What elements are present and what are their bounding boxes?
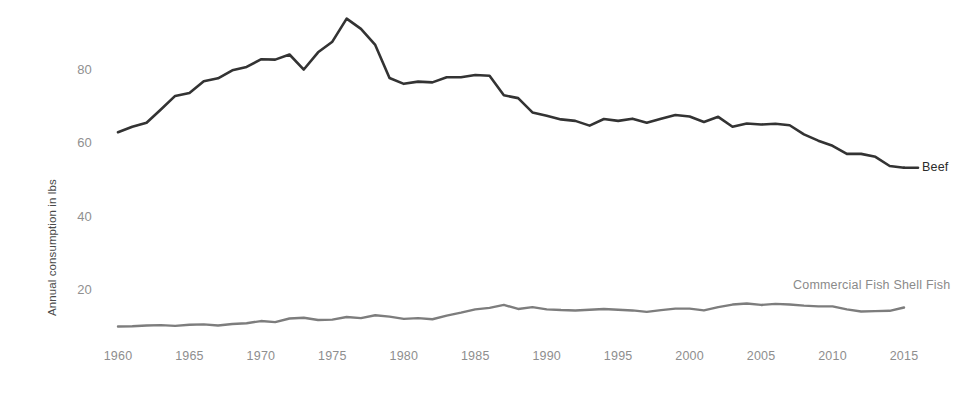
line-chart: Annual consumption in lbs 20406080 19601… — [0, 0, 974, 393]
plot-area — [0, 0, 974, 393]
series-label-fish: Commercial Fish Shell Fish — [793, 278, 950, 292]
series-line-beef — [118, 19, 904, 168]
series-line-fish — [118, 303, 904, 326]
series-label-beef: Beef — [922, 160, 949, 174]
